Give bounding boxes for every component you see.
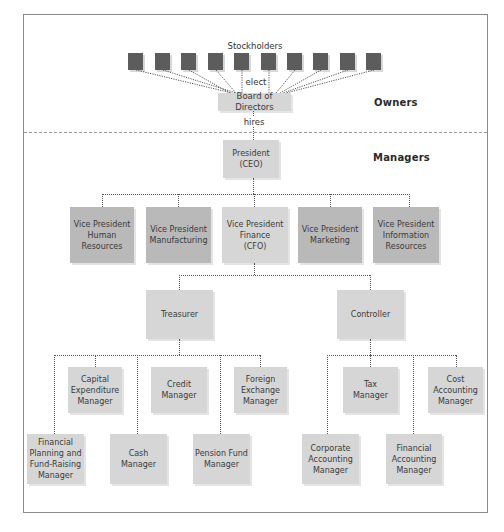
- president-title: President: [232, 148, 269, 159]
- manager-line: Tax: [353, 379, 388, 390]
- vp-human-resources-box: Vice President Human Resources: [70, 207, 134, 263]
- vp-finance-box: Vice President Finance (CFO): [222, 207, 288, 263]
- capital-expenditure-manager-box: Capital Expenditure Manager: [68, 367, 122, 413]
- corporate-accounting-manager-box: Corporate Accounting Manager: [302, 434, 359, 484]
- controller-bus-line: [327, 355, 456, 356]
- vp-line: Manufacturing: [150, 235, 208, 246]
- vp-information-resources-box: Vice President Information Resources: [373, 207, 439, 263]
- manager-line: Manager: [29, 470, 81, 481]
- manager-line: Manager: [308, 465, 353, 476]
- manager-line: Manager: [121, 459, 156, 470]
- controller-connector: [370, 339, 371, 355]
- manager-line: Manager: [71, 396, 119, 407]
- foreign-exchange-manager-box: Foreign Exchange Manager: [234, 367, 287, 413]
- financial-planning-fund-raising-manager-box: Financial Planning and Fund-Raising Mana…: [27, 434, 84, 484]
- manager-line: Cost: [433, 374, 478, 385]
- manager-line: Expenditure: [71, 385, 119, 396]
- vp-line: Vice President: [378, 219, 435, 230]
- manager-line: Foreign: [241, 374, 280, 385]
- board-of-directors-label: Board of Directors: [218, 91, 291, 113]
- tax-manager-box: Tax Manager: [343, 367, 398, 413]
- report-drop-line: [54, 355, 55, 434]
- manager-line: Manager: [353, 390, 388, 401]
- vp-drop-line: [178, 194, 179, 207]
- vp-line: (CFO): [227, 241, 284, 252]
- owners-managers-separator: [24, 132, 487, 133]
- vp-drop-line: [330, 194, 331, 207]
- vp-line: Vice President: [302, 224, 359, 235]
- manager-line: Accounting: [392, 454, 437, 465]
- manager-line: Capital: [71, 374, 119, 385]
- manager-line: Credit: [161, 379, 196, 390]
- pension-fund-manager-box: Pension Fund Manager: [193, 434, 250, 484]
- hires-label: hires: [240, 117, 268, 127]
- manager-line: Cash: [121, 448, 156, 459]
- vp-line: Vice President: [74, 219, 131, 230]
- cfo-connector: [254, 263, 255, 275]
- manager-line: Manager: [433, 396, 478, 407]
- manager-line: Financial: [29, 437, 81, 448]
- elect-label: elect: [242, 77, 270, 87]
- vp-marketing-box: Vice President Marketing: [298, 207, 362, 263]
- credit-manager-box: Credit Manager: [151, 367, 207, 413]
- vp-manufacturing-box: Vice President Manufacturing: [146, 207, 211, 263]
- vp-line: Finance: [227, 230, 284, 241]
- president-connector: [253, 178, 254, 194]
- manager-line: Accounting: [308, 454, 353, 465]
- treasurer-label: Treasurer: [161, 309, 198, 320]
- vp-line: Resources: [74, 241, 131, 252]
- vp-drop-line: [254, 194, 255, 207]
- report-drop-line: [327, 355, 328, 434]
- manager-line: Manager: [241, 396, 280, 407]
- financial-accounting-manager-box: Financial Accounting Manager: [386, 434, 442, 484]
- vp-line: Vice President: [227, 219, 284, 230]
- report-drop-line: [260, 355, 261, 367]
- report-drop-line: [456, 355, 457, 367]
- manager-line: Financial: [392, 443, 437, 454]
- report-drop-line: [137, 355, 138, 434]
- cost-accounting-manager-box: Cost Accounting Manager: [428, 367, 483, 413]
- manager-line: Planning and: [29, 448, 81, 459]
- managers-section-label: Managers: [373, 152, 430, 163]
- vp-line: Human: [74, 230, 131, 241]
- manager-line: Manager: [392, 465, 437, 476]
- manager-line: Manager: [161, 390, 196, 401]
- treasurer-connector: [179, 339, 180, 355]
- manager-line: Exchange: [241, 385, 280, 396]
- vp-drop-line: [102, 194, 103, 207]
- vp-drop-line: [409, 194, 410, 207]
- report-drop-line: [370, 355, 371, 367]
- manager-line: Corporate: [308, 443, 353, 454]
- vp-line: Vice President: [150, 224, 208, 235]
- manager-line: Accounting: [433, 385, 478, 396]
- vp-bus-line: [102, 194, 410, 195]
- controller-box: Controller: [337, 290, 404, 339]
- treasurer-bus-line: [54, 355, 260, 356]
- report-drop-line: [220, 355, 221, 434]
- board-of-directors-box: Board of Directors: [218, 93, 291, 111]
- vp-line: Resources: [378, 241, 435, 252]
- vp-line: Marketing: [302, 235, 359, 246]
- controller-drop-line: [370, 275, 371, 290]
- treasurer-drop-line: [179, 275, 180, 290]
- manager-line: Manager: [195, 459, 248, 470]
- president-box: President (CEO): [223, 140, 279, 178]
- treasurer-box: Treasurer: [146, 290, 213, 339]
- controller-label: Controller: [351, 309, 390, 320]
- manager-line: Pension Fund: [195, 448, 248, 459]
- owners-section-label: Owners: [374, 97, 418, 108]
- vp-line: Information: [378, 230, 435, 241]
- report-drop-line: [413, 355, 414, 434]
- report-drop-line: [95, 355, 96, 367]
- manager-line: Fund-Raising: [29, 459, 81, 470]
- president-subtitle: (CEO): [232, 159, 269, 170]
- cash-manager-box: Cash Manager: [110, 434, 167, 484]
- finance-bus-line: [179, 275, 370, 276]
